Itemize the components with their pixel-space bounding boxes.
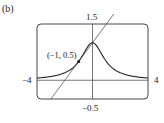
plot-area xyxy=(0,0,164,123)
tangent-line-extension xyxy=(106,14,113,24)
tangent-point-marker xyxy=(77,60,80,63)
